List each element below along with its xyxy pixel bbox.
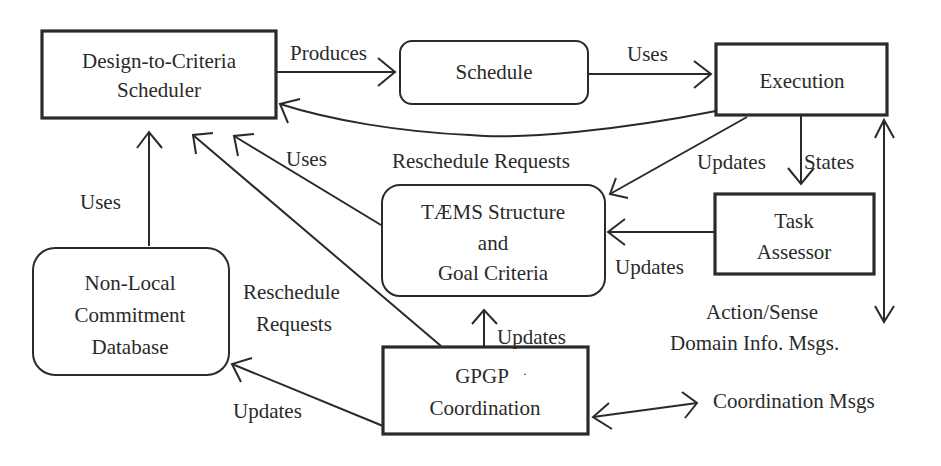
diagram-svg: Design-to-Criteria Scheduler Schedule Ex… (0, 0, 941, 466)
label-updates-exec: Updates (697, 150, 766, 174)
node-nonlocal: Non-Local Commitment Database (33, 248, 229, 375)
node-gpgp-box (383, 347, 588, 434)
node-execution-line-1: Execution (759, 69, 845, 93)
edge-updates-gpgp-taems (472, 310, 497, 346)
node-assessor: Task Assessor (715, 194, 874, 274)
node-gpgp: GPGP · Coordination (383, 347, 588, 434)
node-scheduler-box (42, 31, 276, 118)
edge-uses-nonlocal (137, 132, 162, 246)
node-gpgp-line-1: GPGP (455, 364, 509, 388)
node-nonlocal-line-2: Commitment (75, 303, 186, 327)
node-assessor-line-2: Assessor (757, 240, 832, 264)
label-uses-taems: Uses (286, 147, 327, 171)
diagram-canvas: Design-to-Criteria Scheduler Schedule Ex… (0, 0, 941, 466)
edge-coordination-msgs-line (593, 403, 697, 417)
label-reschedule-gpgp-1: Reschedule (243, 280, 340, 304)
label-uses-nonlocal: Uses (80, 190, 121, 214)
node-taems-line-3: Goal Criteria (438, 261, 549, 285)
node-schedule-line-1: Schedule (456, 60, 533, 84)
label-reschedule-gpgp-2: Requests (256, 312, 332, 336)
node-execution: Execution (716, 44, 887, 115)
arrowhead-icon (280, 99, 300, 123)
label-updates-gpgp-taems: Updates (497, 325, 566, 349)
node-nonlocal-line-3: Database (92, 335, 169, 359)
node-taems-line-2: and (478, 231, 509, 255)
node-assessor-line-1: Task (774, 209, 814, 233)
label-reschedule-requests-top: Reschedule Requests (392, 149, 570, 173)
node-taems: TÆMS Structure and Goal Criteria (382, 185, 605, 296)
label-produces: Produces (290, 41, 367, 65)
label-states: States (804, 150, 854, 174)
node-schedule: Schedule (400, 41, 588, 104)
edge-action-sense (875, 120, 894, 322)
label-updates-assessor: Updates (615, 255, 684, 279)
node-gpgp-line-2: Coordination (430, 396, 541, 420)
edge-coordination-msgs (593, 392, 697, 429)
node-gpgp-dot: · (523, 367, 527, 381)
edge-reschedule-exec-line (280, 104, 716, 136)
label-coordination-msgs: Coordination Msgs (713, 389, 875, 413)
label-uses-schedule: Uses (627, 42, 668, 66)
label-action-sense-2: Domain Info. Msgs. (670, 331, 839, 355)
node-taems-line-1: TÆMS Structure (421, 200, 565, 224)
edge-updates-assessor (608, 219, 715, 245)
label-updates-gpgp-nonlocal: Updates (233, 399, 302, 423)
node-scheduler: Design-to-Criteria Scheduler (42, 31, 276, 118)
node-scheduler-line-2: Scheduler (117, 78, 201, 102)
node-nonlocal-line-1: Non-Local (85, 271, 176, 295)
node-scheduler-line-1: Design-to-Criteria (82, 49, 237, 73)
label-action-sense-1: Action/Sense (706, 300, 818, 324)
